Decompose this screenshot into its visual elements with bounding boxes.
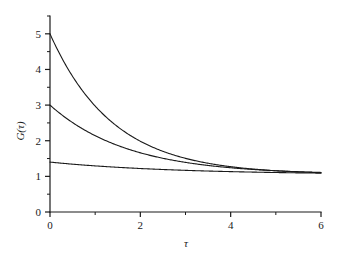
- line-chart: 012345 0246 τ G(τ): [0, 0, 337, 257]
- y-tick-label: 2: [36, 135, 42, 147]
- y-tick-label: 4: [36, 63, 42, 75]
- y-tick-label: 3: [36, 99, 42, 111]
- y-tick-label: 1: [36, 170, 42, 182]
- y-axis-title: G(τ): [14, 121, 27, 141]
- chart-figure: 012345 0246 τ G(τ): [0, 0, 337, 257]
- x-tick-label: 2: [138, 219, 144, 231]
- x-tick-label: 6: [318, 219, 324, 231]
- y-tick-label: 0: [36, 206, 42, 218]
- y-tick-label: 5: [36, 28, 42, 40]
- x-tick-label: 0: [47, 219, 53, 231]
- x-tick-label: 4: [228, 219, 234, 231]
